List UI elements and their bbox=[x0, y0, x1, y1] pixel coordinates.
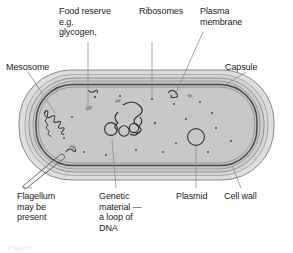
label-flagellum: Flagellum may be present bbox=[17, 191, 55, 223]
label-plasmid: Plasmid bbox=[176, 191, 207, 202]
label-cell-wall: Cell wall bbox=[224, 191, 257, 202]
label-food-reserve: Food reserve e.g. glycogen, bbox=[59, 6, 111, 38]
cytoplasm bbox=[39, 87, 255, 163]
label-plasma-membrane: Plasma membrane bbox=[200, 6, 242, 27]
figure-caption: Figure bbox=[8, 243, 31, 252]
label-mesosome: Mesosome bbox=[6, 62, 49, 73]
label-ribosomes: Ribosomes bbox=[139, 6, 183, 17]
label-capsule: Capsule bbox=[225, 62, 257, 73]
bacterial-cell-figure: Mesosome Food reserve e.g. glycogen, Rib… bbox=[0, 0, 293, 253]
label-genetic-material: Genetic material — a loop of DNA bbox=[99, 191, 142, 233]
